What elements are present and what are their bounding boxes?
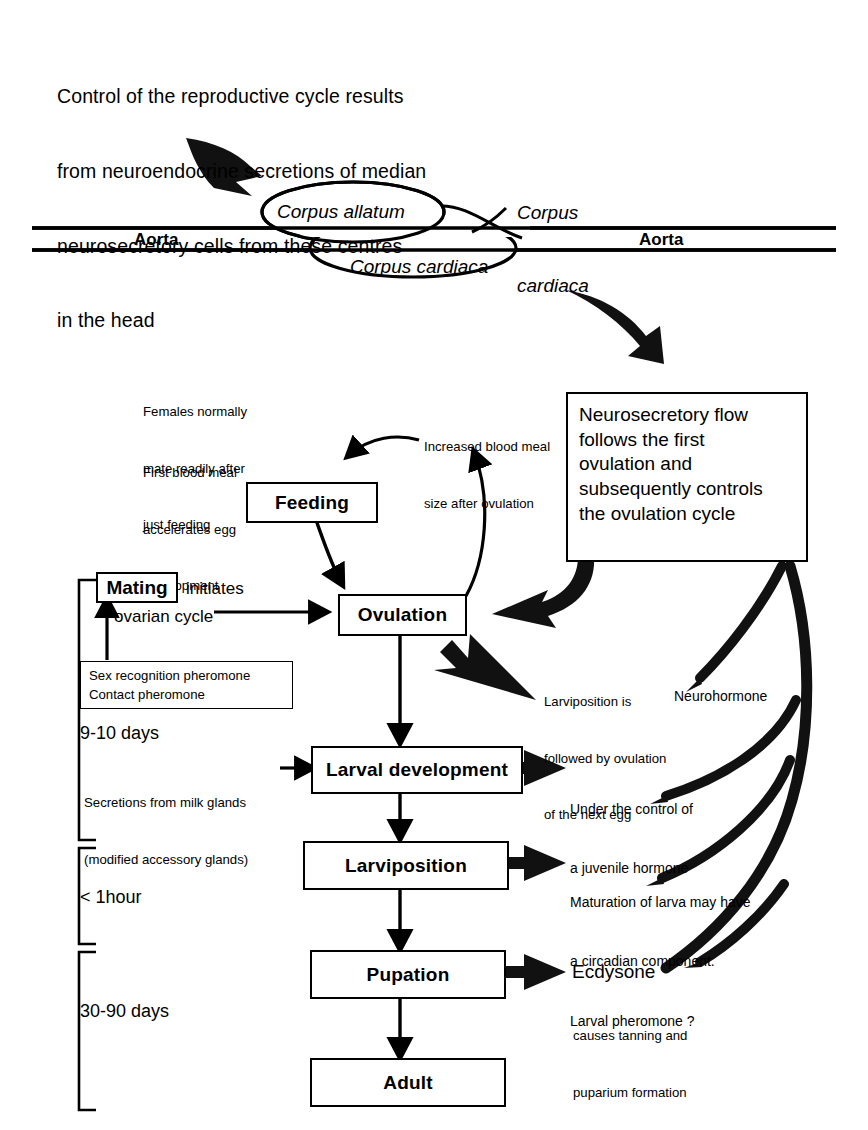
corpus-cardiaca-callout-line-1: Corpus bbox=[517, 201, 589, 225]
mating-ovarian-cycle-label: ovarian cycle bbox=[114, 606, 213, 628]
note-females-mate-line-1: Females normally bbox=[143, 403, 247, 422]
note-larviposition-followed-line-1: Larviposition is bbox=[544, 693, 666, 712]
arrow-larviposition-note-to-ovulation bbox=[434, 634, 536, 700]
intro-line-4: in the head bbox=[57, 308, 426, 333]
note-milk-glands-line-1: Secretions from milk glands bbox=[84, 794, 248, 813]
neurosecretory-line-3: ovulation and bbox=[579, 452, 795, 477]
note-milk-glands: Secretions from milk glands (modified ac… bbox=[84, 757, 248, 907]
note-first-blood-meal-line-2: accelerates egg bbox=[143, 521, 237, 540]
corpus-cardiaca-callout-label: Corpus cardiaca bbox=[517, 152, 589, 347]
bracket-label-9-10-days: 9-10 days bbox=[80, 722, 159, 745]
aorta-left-label: Aorta bbox=[134, 229, 178, 251]
arrow-bloodmeal-to-feeding bbox=[348, 437, 419, 456]
corpus-allatum-label: Corpus allatum bbox=[277, 200, 405, 224]
note-ecdysone-sub: causes tanning and puparium formation bbox=[573, 990, 687, 1130]
intro-line-1: Control of the reproductive cycle result… bbox=[57, 84, 426, 109]
arrow-ecdysone-to-pupation bbox=[500, 954, 566, 990]
neurosecretory-flow-box: Neurosecretory flow follows the first ov… bbox=[566, 392, 808, 562]
corpus-cardiaca-callout-line-2: cardiaca bbox=[517, 274, 589, 298]
node-adult[interactable]: Adult bbox=[310, 1058, 506, 1107]
note-first-blood-meal-line-1: First blood meal bbox=[143, 464, 237, 483]
node-ovulation[interactable]: Ovulation bbox=[338, 594, 467, 636]
pheromone-box: Sex recognition pheromone Contact pherom… bbox=[80, 661, 293, 709]
neurosecretory-line-1: Neurosecretory flow bbox=[579, 403, 795, 428]
note-increased-blood-meal: Increased blood meal size after ovulatio… bbox=[424, 401, 550, 551]
mating-initiates-label: initiates bbox=[186, 578, 244, 600]
note-neurohormone: Neurohormone bbox=[674, 688, 767, 706]
note-ecdysone: Ecdysone bbox=[572, 960, 655, 984]
note-ecdysone-sub-line-1: causes tanning and bbox=[573, 1027, 687, 1046]
aorta-right-label: Aorta bbox=[639, 229, 683, 251]
arrow-feeding-to-ovulation bbox=[316, 520, 342, 584]
intro-line-2: from neuroendocrine secretions of median bbox=[57, 159, 426, 184]
diagram-canvas: Control of the reproductive cycle result… bbox=[0, 0, 868, 1130]
node-pupation[interactable]: Pupation bbox=[310, 950, 506, 999]
neurosecretory-line-4: subsequently controls bbox=[579, 477, 795, 502]
neurosecretory-line-2: follows the first bbox=[579, 428, 795, 453]
note-increased-blood-meal-line-2: size after ovulation bbox=[424, 495, 550, 514]
node-larviposition[interactable]: Larviposition bbox=[303, 841, 509, 890]
arrow-neurosecretory-into-ovulation bbox=[492, 556, 594, 628]
note-juvenile-hormone-line-1: Under the control of bbox=[570, 800, 693, 820]
pheromone-line-1: Sex recognition pheromone bbox=[89, 667, 285, 686]
neurosecretory-flow-text: Neurosecretory flow follows the first ov… bbox=[579, 403, 795, 526]
node-mating[interactable]: Mating bbox=[96, 572, 178, 603]
neurosecretory-line-5: the ovulation cycle bbox=[579, 502, 795, 527]
note-increased-blood-meal-line-1: Increased blood meal bbox=[424, 438, 550, 457]
bracket-label-30-90-days: 30-90 days bbox=[80, 1000, 169, 1023]
corpus-cardiaca-lower-label: Corpus cardiaca bbox=[350, 255, 488, 279]
node-feeding[interactable]: Feeding bbox=[246, 482, 378, 523]
note-ecdysone-sub-line-2: puparium formation bbox=[573, 1084, 687, 1103]
node-larval-development[interactable]: Larval development bbox=[311, 746, 523, 794]
pheromone-line-2: Contact pheromone bbox=[89, 686, 285, 705]
note-milk-glands-line-2: (modified accessory glands) bbox=[84, 851, 248, 870]
note-maturation-line-1: Maturation of larva may have bbox=[570, 893, 751, 913]
